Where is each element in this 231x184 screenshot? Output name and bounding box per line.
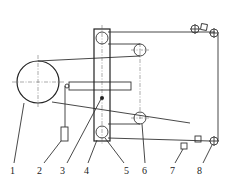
small-pulley [65, 84, 69, 88]
callout-1: 1 [10, 165, 15, 176]
callout-8: 8 [197, 165, 202, 176]
counterweight [61, 127, 68, 141]
leader-1 [14, 103, 24, 163]
rope-lower [52, 102, 190, 123]
callout-6: 6 [142, 165, 147, 176]
shaft-bar [69, 82, 131, 90]
slider-block-7 [181, 143, 187, 149]
leader-6 [142, 124, 145, 163]
drum [12, 55, 64, 108]
callout-2: 2 [37, 165, 42, 176]
callout-3: 3 [60, 165, 65, 176]
top-slider-block [201, 24, 208, 31]
callout-5: 5 [124, 165, 129, 176]
callout-4: 4 [84, 165, 89, 176]
leader-8 [203, 145, 212, 163]
leader-7 [175, 149, 183, 163]
leader-2 [44, 141, 61, 163]
callout-7: 7 [170, 165, 175, 176]
leader-4 [88, 140, 97, 163]
leader-5 [105, 138, 124, 163]
mechanical-diagram: 1 2 3 4 5 6 7 8 [0, 0, 231, 184]
rope-top [38, 56, 140, 61]
